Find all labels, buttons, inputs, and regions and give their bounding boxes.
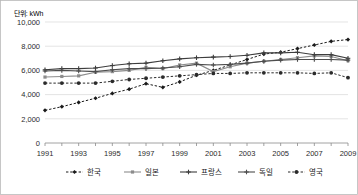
x-tick-label: 2001	[205, 149, 222, 158]
legend-item-한국[interactable]: 한국	[66, 168, 101, 177]
legend-label: 한국	[87, 168, 101, 177]
data-series-group	[43, 37, 351, 112]
chart-container: 단위: kWh 02,0004,0006,0008,00010,000 1991…	[0, 0, 358, 195]
legend-item-독일[interactable]: 독일	[238, 168, 273, 177]
series-프랑스	[43, 50, 351, 72]
x-tick-label: 1995	[104, 149, 121, 158]
x-axis-tick-labels: 1991199319951997199920012003200520072009	[37, 143, 357, 158]
x-tick-label: 2009	[340, 149, 357, 158]
legend-label: 프랑스	[201, 168, 222, 177]
chart-legend: 한국일본프랑스독일영국	[66, 167, 323, 177]
y-tick-label: 6,000	[21, 66, 40, 75]
legend-item-프랑스[interactable]: 프랑스	[180, 168, 222, 177]
y-axis-tick-labels: 02,0004,0006,0008,00010,000	[17, 18, 40, 148]
legend-label: 영국	[309, 167, 323, 177]
x-tick-label: 1997	[138, 149, 155, 158]
x-tick-label: 2003	[239, 149, 256, 158]
legend-item-영국[interactable]: 영국	[288, 167, 323, 177]
y-tick-label: 4,000	[21, 90, 40, 99]
y-tick-label: 8,000	[21, 42, 40, 51]
line-chart: 02,0004,0006,0008,00010,000 199119931995…	[0, 0, 358, 195]
y-tick-label: 0	[36, 139, 40, 148]
chart-border	[1, 1, 358, 195]
x-tick-label: 1999	[171, 149, 188, 158]
x-tick-label: 2007	[306, 149, 323, 158]
y-tick-label: 2,000	[21, 115, 40, 124]
x-tick-label: 1993	[70, 149, 87, 158]
legend-label: 독일	[259, 168, 273, 177]
gridlines	[45, 22, 348, 143]
series-line	[45, 52, 348, 70]
x-tick-label: 1991	[37, 149, 54, 158]
x-tick-label: 2005	[272, 149, 289, 158]
y-tick-label: 10,000	[17, 18, 40, 27]
legend-label: 일본	[145, 168, 159, 177]
legend-item-일본[interactable]: 일본	[124, 168, 159, 177]
